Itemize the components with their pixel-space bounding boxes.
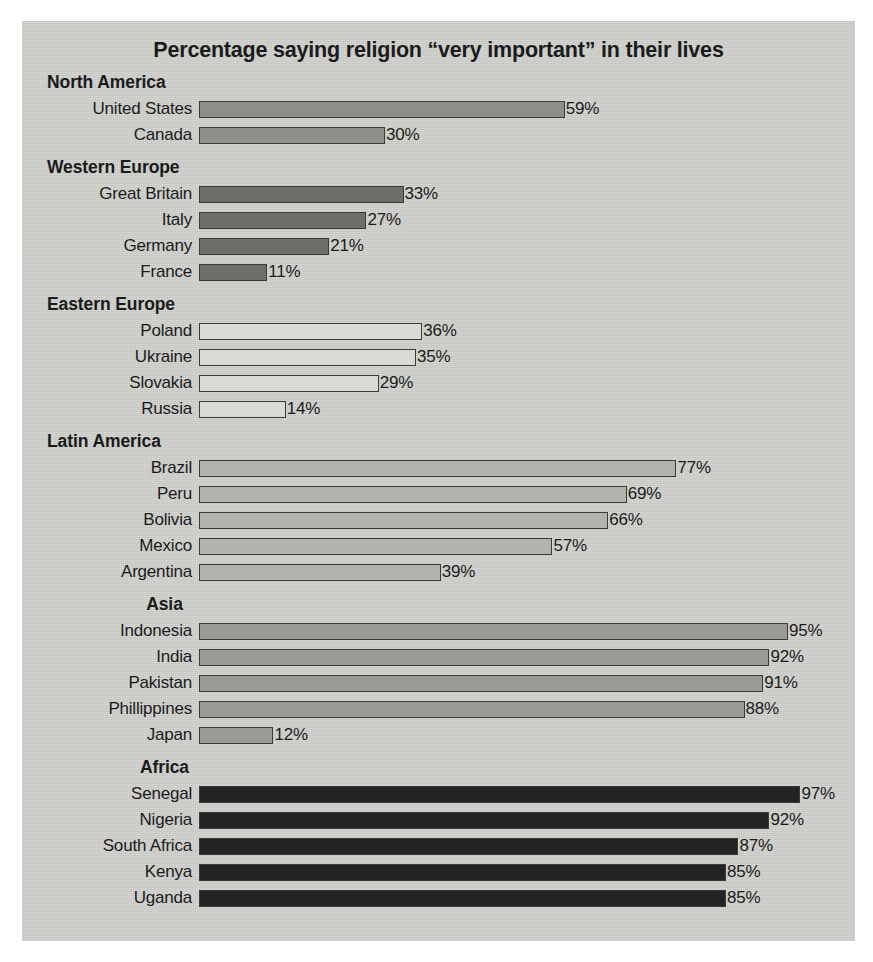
bar-value-label: 77% (677, 458, 710, 478)
chart-group: Western EuropeGreat Britain33%Italy27%Ge… (22, 157, 855, 285)
bar-track: 97% (199, 781, 855, 807)
bar (199, 264, 267, 281)
bar-row: South Africa87% (22, 833, 855, 859)
bar-track: 77% (199, 455, 855, 481)
bar (199, 101, 565, 118)
bar-category-label: Brazil (22, 458, 199, 478)
bar-category-label: Indonesia (22, 621, 199, 641)
bar-value-label: 69% (628, 484, 661, 504)
bar-category-label: Russia (22, 399, 199, 419)
bar (199, 812, 769, 829)
bar-track: 36% (199, 318, 855, 344)
bar-category-label: France (22, 262, 199, 282)
bar (199, 512, 608, 529)
group-header: Western Europe (22, 157, 855, 178)
bar-row: Japan12% (22, 722, 855, 748)
bar-track: 39% (199, 559, 855, 585)
bar-value-label: 66% (609, 510, 642, 530)
bar-track: 95% (199, 618, 855, 644)
bar-row: Russia14% (22, 396, 855, 422)
chart-title: Percentage saying religion “very importa… (22, 21, 855, 63)
bar-track: 59% (199, 96, 855, 122)
bar-category-label: Mexico (22, 536, 199, 556)
bar-row: United States59% (22, 96, 855, 122)
bar-track: 30% (199, 122, 855, 148)
bar-row: Poland36% (22, 318, 855, 344)
bar (199, 460, 676, 477)
bar-row: Phillippines88% (22, 696, 855, 722)
bar-row: Pakistan91% (22, 670, 855, 696)
group-header: North America (22, 72, 855, 93)
bar (199, 538, 552, 555)
bar-track: 11% (199, 259, 855, 285)
group-header: Africa (22, 757, 307, 778)
bar-category-label: Japan (22, 725, 199, 745)
bar-track: 27% (199, 207, 855, 233)
bar-row: Germany21% (22, 233, 855, 259)
bar (199, 838, 738, 855)
bar (199, 727, 273, 744)
bar (199, 786, 800, 803)
bar-category-label: United States (22, 99, 199, 119)
bar (199, 675, 763, 692)
bar-value-label: 29% (380, 373, 413, 393)
group-header: Eastern Europe (22, 294, 855, 315)
bar-category-label: Slovakia (22, 373, 199, 393)
bar-track: 85% (199, 885, 855, 911)
bar-category-label: Pakistan (22, 673, 199, 693)
bar-row: Indonesia95% (22, 618, 855, 644)
bar-track: 57% (199, 533, 855, 559)
bar (199, 186, 404, 203)
bar-track: 88% (199, 696, 855, 722)
bar (199, 375, 379, 392)
chart-groups: North AmericaUnited States59%Canada30%We… (22, 72, 855, 911)
bar-category-label: Nigeria (22, 810, 199, 830)
bar-category-label: Phillippines (22, 699, 199, 719)
bar (199, 401, 286, 418)
group-header: Asia (22, 594, 307, 615)
bar-category-label: Germany (22, 236, 199, 256)
bar-value-label: 36% (423, 321, 456, 341)
bar (199, 890, 726, 907)
bar-row: Uganda85% (22, 885, 855, 911)
bar-category-label: South Africa (22, 836, 199, 856)
bar-track: 21% (199, 233, 855, 259)
bar-row: Brazil77% (22, 455, 855, 481)
chart-group: AfricaSenegal97%Nigeria92%South Africa87… (22, 757, 855, 911)
bar-track: 87% (199, 833, 855, 859)
bar (199, 238, 329, 255)
bar-value-label: 35% (417, 347, 450, 367)
bar-value-label: 59% (566, 99, 599, 119)
bar-track: 92% (199, 807, 855, 833)
bar-value-label: 97% (801, 784, 834, 804)
bar (199, 486, 627, 503)
bar-value-label: 88% (746, 699, 779, 719)
bar-track: 29% (199, 370, 855, 396)
chart-group: North AmericaUnited States59%Canada30% (22, 72, 855, 148)
chart-group: Latin AmericaBrazil77%Peru69%Bolivia66%M… (22, 431, 855, 585)
bar-value-label: 30% (386, 125, 419, 145)
bar-value-label: 95% (789, 621, 822, 641)
bar-category-label: Peru (22, 484, 199, 504)
bar-row: Kenya85% (22, 859, 855, 885)
bar (199, 564, 441, 581)
bar-row: Senegal97% (22, 781, 855, 807)
bar-value-label: 11% (268, 262, 300, 282)
bar-track: 92% (199, 644, 855, 670)
bar-row: Argentina39% (22, 559, 855, 585)
bar-row: Slovakia29% (22, 370, 855, 396)
bar-track: 35% (199, 344, 855, 370)
bar-row: India92% (22, 644, 855, 670)
bar-value-label: 14% (287, 399, 320, 419)
bar-track: 14% (199, 396, 855, 422)
bar-value-label: 87% (739, 836, 772, 856)
bar-value-label: 92% (770, 647, 803, 667)
bar-category-label: Poland (22, 321, 199, 341)
bar-row: Nigeria92% (22, 807, 855, 833)
bar-row: Mexico57% (22, 533, 855, 559)
bar-category-label: Argentina (22, 562, 199, 582)
bar-row: France11% (22, 259, 855, 285)
bar-value-label: 12% (274, 725, 307, 745)
bar-row: Canada30% (22, 122, 855, 148)
bar-value-label: 91% (764, 673, 797, 693)
